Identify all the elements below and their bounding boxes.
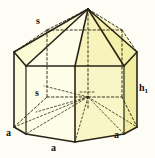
- solid-diagram: [0, 0, 155, 158]
- label-height-subscript: 1: [145, 87, 149, 95]
- label-height-h1: h1: [139, 83, 148, 93]
- label-base-center: a: [51, 143, 56, 153]
- geometry-figure: s s h1 a a a: [0, 0, 155, 158]
- prism-face-front-left: [26, 66, 75, 142]
- label-slant-top: s: [36, 16, 40, 26]
- label-base-left: a: [6, 128, 11, 138]
- label-height-base: h: [139, 82, 145, 93]
- label-slant-inner: s: [35, 88, 39, 98]
- label-base-right: a: [114, 130, 119, 140]
- inner-center-point: [87, 96, 90, 99]
